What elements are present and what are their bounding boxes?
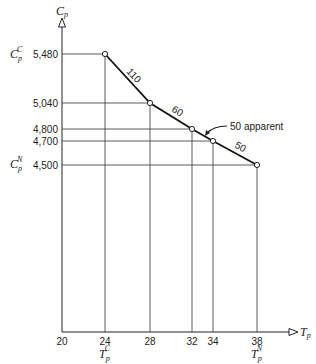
slope-label-50: 50 — [233, 139, 248, 154]
data-point — [147, 100, 152, 105]
y-axis-label: Cp — [56, 4, 68, 19]
apparent-label: 50 apparent — [230, 121, 284, 132]
data-point — [189, 126, 194, 131]
y-tick-label: 5,480 — [33, 49, 58, 60]
y-tick-label: 4,800 — [33, 124, 58, 135]
y-tick-label: 5,040 — [33, 98, 58, 109]
slope-label-110: 110 — [125, 66, 144, 85]
data-point — [210, 138, 215, 143]
data-point — [102, 51, 107, 56]
tpn-label: TpN — [251, 344, 263, 363]
x-axis-arrow-icon — [289, 329, 298, 336]
cpn-label: CpN — [10, 155, 23, 173]
x-tick-label: 34 — [207, 336, 219, 347]
cpc-label: CpC — [10, 45, 23, 63]
y-tick-label: 4,500 — [33, 160, 58, 171]
x-tick-label: 28 — [144, 336, 156, 347]
data-point — [254, 162, 259, 167]
x-axis-label: Tp — [300, 325, 311, 340]
x-tick-label: 32 — [186, 336, 198, 347]
y-tick-label: 4,700 — [33, 136, 58, 147]
x-tick-label: 20 — [56, 336, 68, 347]
tpc-label: TpC — [99, 344, 111, 363]
chart: Cp Tp 5,480 5,040 4,800 4,700 4,500 CpC … — [0, 0, 316, 364]
apparent-leader-line — [207, 126, 227, 133]
y-axis-arrow-icon — [59, 18, 66, 27]
